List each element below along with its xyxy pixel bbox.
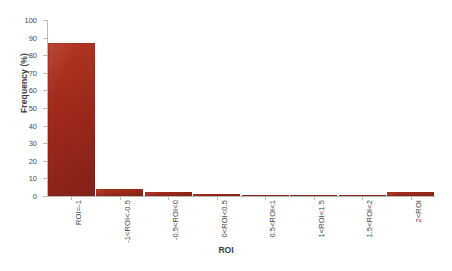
- y-tick-label: 90: [29, 33, 37, 42]
- y-tick: 90: [43, 38, 47, 39]
- x-tick: [71, 196, 72, 200]
- y-tick-label: 20: [29, 156, 37, 165]
- y-tick: 20: [43, 161, 47, 162]
- x-tick-label: -1<ROI<-0.5: [123, 200, 132, 243]
- x-tick: [314, 196, 315, 200]
- bar-series: [47, 20, 435, 196]
- x-tick-label: 0<ROI<0.5: [220, 200, 229, 238]
- x-tick: [217, 196, 218, 200]
- roi-frequency-histogram: Frequency (%) 0102030405060708090100 ROI…: [0, 0, 452, 271]
- y-tick: 60: [43, 90, 47, 91]
- y-tick-label: 80: [29, 51, 37, 60]
- y-tick-label: 0: [33, 192, 37, 201]
- y-tick: 0: [43, 196, 47, 197]
- y-tick: 70: [43, 73, 47, 74]
- x-tick: [265, 196, 266, 200]
- y-tick-label: 60: [29, 86, 37, 95]
- x-tick: [411, 196, 412, 200]
- x-tick: [168, 196, 169, 200]
- x-tick-label: -0.5<ROI<0: [171, 200, 180, 240]
- y-tick-label: 10: [29, 174, 37, 183]
- x-tick: [120, 196, 121, 200]
- y-tick: 10: [43, 178, 47, 179]
- x-tick: [362, 196, 363, 200]
- x-axis-line: [47, 196, 435, 197]
- y-tick: 80: [43, 55, 47, 56]
- y-tick: 100: [43, 20, 47, 21]
- y-tick-label: 50: [29, 104, 37, 113]
- y-tick: 50: [43, 108, 47, 109]
- x-tick-label: 1<ROI<1.5: [317, 200, 326, 238]
- x-tick-label: ROI=-1: [74, 200, 83, 225]
- y-tick: 40: [43, 126, 47, 127]
- x-tick-label: 0.5<ROI<1: [268, 200, 277, 238]
- x-tick-label: 1.5<ROI<2: [365, 200, 374, 238]
- y-tick-label: 70: [29, 68, 37, 77]
- y-axis-title: Frequency (%): [19, 28, 29, 138]
- y-tick-label: 40: [29, 121, 37, 130]
- x-axis-title: ROI: [0, 245, 452, 255]
- bar: [48, 43, 95, 196]
- y-tick-label: 100: [24, 16, 37, 25]
- y-tick-label: 30: [29, 139, 37, 148]
- bar: [96, 189, 143, 196]
- y-tick: 30: [43, 143, 47, 144]
- plot-area: 0102030405060708090100 ROI=-1-1<ROI<-0.5…: [47, 20, 435, 196]
- x-tick-label: 2<ROI: [414, 200, 423, 222]
